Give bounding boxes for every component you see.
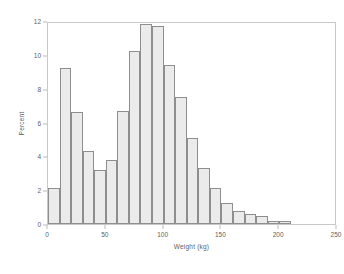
histogram-bar	[129, 51, 141, 224]
y-axis-tick-label: 0	[37, 222, 41, 229]
histogram-bar	[221, 203, 233, 224]
x-axis-tick-label: 150	[215, 232, 226, 239]
histogram-bar	[210, 188, 222, 224]
y-axis-tick-label: 8	[37, 86, 41, 93]
histogram-bar	[60, 68, 72, 224]
histogram-bar	[187, 138, 199, 224]
histogram-bar	[198, 168, 210, 224]
x-axis-label: Weight (kg)	[47, 243, 336, 250]
x-axis-tick-mark	[336, 225, 337, 229]
histogram-bar	[233, 211, 245, 224]
x-axis-tick-mark	[47, 225, 48, 229]
y-axis-tick-label: 4	[37, 154, 41, 161]
x-axis-tick-label: 100	[157, 232, 168, 239]
histogram-bar	[152, 26, 164, 224]
x-axis-tick-label: 200	[273, 232, 284, 239]
histogram-bar	[245, 214, 257, 224]
x-axis-tick-mark	[278, 225, 279, 229]
histogram-bar	[164, 65, 176, 224]
x-axis-tick-mark	[162, 225, 163, 229]
x-axis-tick-mark	[104, 225, 105, 229]
y-axis-tick-label: 12	[34, 19, 41, 26]
x-axis-tick-label: 0	[45, 232, 49, 239]
histogram-bar	[256, 216, 268, 224]
plot-frame	[47, 22, 336, 225]
histogram-bar	[140, 24, 152, 224]
plot-area	[48, 23, 335, 224]
histogram-bar	[117, 111, 129, 224]
histogram-bar	[94, 170, 106, 224]
histogram-bar	[106, 160, 118, 224]
histogram-bar	[268, 221, 280, 224]
y-axis-tick-label: 2	[37, 188, 41, 195]
x-axis-tick-label: 50	[101, 232, 108, 239]
histogram-bar	[71, 112, 83, 224]
x-axis-tick-mark	[220, 225, 221, 229]
histogram-bar	[83, 151, 95, 224]
histogram-bar	[48, 188, 60, 224]
x-axis-tick-label: 250	[331, 232, 342, 239]
histogram-bar	[175, 97, 187, 224]
y-axis-tick-group: 024681012	[0, 22, 47, 225]
y-axis-tick-label: 10	[34, 53, 41, 60]
y-axis-tick-label: 6	[37, 120, 41, 127]
histogram-figure: Percent 024681012 050100150200250 Weight…	[0, 0, 344, 274]
histogram-bar	[279, 221, 291, 224]
